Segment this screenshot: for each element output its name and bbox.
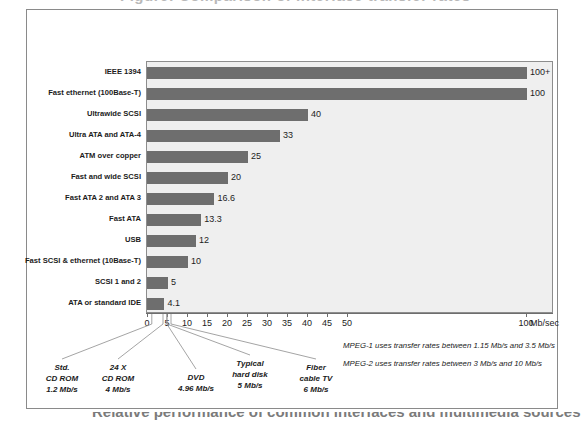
x-axis-tick	[167, 313, 168, 317]
x-axis-tick-label: 25	[242, 318, 252, 328]
x-axis-tick-label: 40	[302, 318, 312, 328]
category-label: Fast ATA	[0, 214, 141, 223]
x-axis-tick	[147, 313, 148, 317]
bar-value-label: 13.3	[204, 214, 222, 224]
x-axis-tick	[307, 313, 308, 317]
x-axis-tick	[247, 313, 248, 317]
bar	[147, 88, 527, 100]
bar	[147, 151, 248, 163]
bar	[147, 130, 280, 142]
category-label: Fast and wide SCSI	[0, 172, 141, 181]
bar	[147, 67, 527, 79]
mpeg-note: MPEG-1 uses transfer rates between 1.15 …	[343, 341, 555, 350]
bar	[147, 172, 228, 184]
mpeg-note: MPEG-2 uses transfer rates between 3 Mb/…	[343, 359, 542, 368]
top-cut-heading: Figure: Comparison of interface transfer…	[0, 0, 583, 8]
annotation-line: CD ROM	[78, 373, 158, 384]
category-label: SCSI 1 and 2	[0, 277, 141, 286]
x-axis-tick-label: 15	[202, 318, 212, 328]
bar-value-label: 100+	[530, 67, 550, 77]
annotation-line: 24 X	[78, 362, 158, 373]
bar-value-label: 33	[283, 130, 293, 140]
category-label: Ultrawide SCSI	[0, 109, 141, 118]
bottom-cut-caption-text: Relative performance of common interface…	[92, 412, 580, 420]
bar-value-label: 20	[231, 172, 241, 182]
bar-value-label: 25	[251, 151, 261, 161]
x-axis-tick-label: 10	[182, 318, 192, 328]
x-axis-tick-label: 45	[322, 318, 332, 328]
category-label: ATA or standard IDE	[0, 298, 141, 307]
x-axis-tick	[207, 313, 208, 317]
bar-value-label: 40	[311, 109, 321, 119]
bottom-cut-caption: Relative performance of common interface…	[0, 412, 583, 427]
bar	[147, 298, 164, 310]
x-axis-tick	[267, 313, 268, 317]
category-label: IEEE 1394	[0, 67, 141, 76]
annotation-line: cable TV	[276, 373, 356, 384]
x-axis-tick	[327, 313, 328, 317]
bar-value-label: 4.1	[167, 298, 180, 308]
x-axis-tick	[227, 313, 228, 317]
bar-value-label: 12	[199, 235, 209, 245]
bar	[147, 256, 188, 268]
category-label: Fast SCSI & ethernet (10Base-T)	[0, 256, 141, 265]
top-cut-heading-text: Figure: Comparison of interface transfer…	[120, 0, 471, 4]
bar	[147, 214, 201, 226]
category-label: ATM over copper	[0, 151, 141, 160]
x-axis-tick-label: 50	[342, 318, 352, 328]
bar-value-label: 5	[171, 277, 176, 287]
category-label: Fast ethernet (100Base-T)	[0, 88, 141, 97]
x-axis-unit-label: Mb/sec	[530, 318, 559, 328]
x-axis-tick	[347, 313, 348, 317]
x-axis-tick-label: 35	[282, 318, 292, 328]
x-axis-tick-label: 20	[222, 318, 232, 328]
annotation-line: 6 Mb/s	[276, 384, 356, 395]
bar-value-label: 10	[191, 256, 201, 266]
annotation-callout: 24 XCD ROM4 Mb/s	[78, 362, 158, 395]
category-label: Ultra ATA and ATA-4	[0, 130, 141, 139]
x-axis-tick-label: 5	[164, 318, 169, 328]
x-axis-tick	[187, 313, 188, 317]
x-axis-tick-label: 30	[262, 318, 272, 328]
x-axis-tick-label: 0	[144, 318, 149, 328]
bar	[147, 109, 308, 121]
category-label: USB	[0, 235, 141, 244]
bar	[147, 277, 168, 289]
annotation-line: 4 Mb/s	[78, 384, 158, 395]
category-label: Fast ATA 2 and ATA 3	[0, 193, 141, 202]
x-axis-tick	[526, 313, 527, 317]
bar-value-label: 100	[530, 88, 545, 98]
bar	[147, 235, 196, 247]
plot-area	[146, 61, 553, 313]
bar-value-label: 16.6	[217, 193, 235, 203]
bar	[147, 193, 214, 205]
x-axis-tick	[287, 313, 288, 317]
